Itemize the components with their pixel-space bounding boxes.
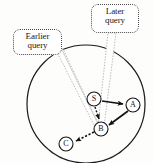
callout-later-line2: query [92, 16, 138, 25]
callout-earlier-query[interactable]: Earlier query [13, 29, 62, 55]
figure-canvas: S A B C Earlier query Later query [0, 0, 153, 163]
node-label-S: S [88, 93, 100, 105]
edge-a-b [109, 111, 128, 125]
node-label-C: C [60, 138, 72, 150]
earlier-query-tail [57, 49, 99, 127]
node-label-A: A [127, 99, 139, 111]
callout-earlier-line2: query [14, 41, 61, 50]
edge-b-c [76, 132, 94, 141]
callout-later-query[interactable]: Later query [91, 4, 139, 33]
earlier-query-pointer-line [62, 50, 98, 124]
node-label-B: B [95, 123, 107, 135]
